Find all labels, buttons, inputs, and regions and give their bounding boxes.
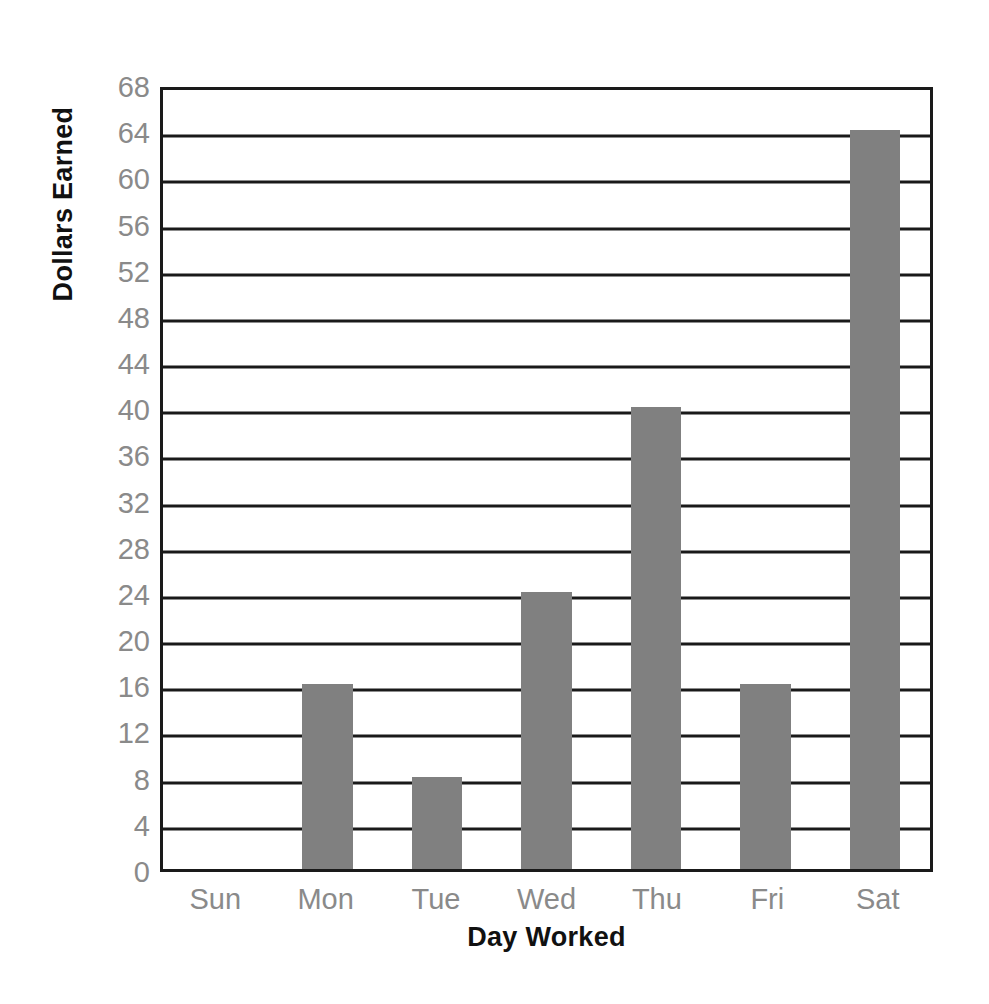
y-tick-label: 12 bbox=[88, 719, 150, 748]
y-tick-label: 48 bbox=[88, 303, 150, 332]
x-tick-label: Wed bbox=[491, 878, 601, 920]
y-tick-label: 68 bbox=[88, 73, 150, 102]
x-axis-tick-labels: SunMonTueWedThuFriSat bbox=[160, 878, 933, 920]
y-tick-label: 60 bbox=[88, 165, 150, 194]
bar-slot bbox=[382, 90, 492, 869]
y-tick-label: 36 bbox=[88, 442, 150, 471]
bar[interactable] bbox=[302, 684, 352, 869]
x-tick-label: Thu bbox=[602, 878, 712, 920]
plot-area bbox=[160, 87, 933, 872]
x-axis-title: Day Worked bbox=[160, 922, 933, 953]
y-tick-label: 16 bbox=[88, 673, 150, 702]
bar-chart: Dollars Earned 6864605652484440363228242… bbox=[0, 0, 989, 1004]
y-tick-label: 8 bbox=[88, 765, 150, 794]
y-tick-label: 4 bbox=[88, 811, 150, 840]
bar-slot bbox=[163, 90, 273, 869]
y-tick-label: 56 bbox=[88, 211, 150, 240]
y-tick-label: 40 bbox=[88, 396, 150, 425]
y-tick-label: 32 bbox=[88, 488, 150, 517]
y-axis-title: Dollars Earned bbox=[46, 44, 80, 364]
x-tick-label: Sun bbox=[160, 878, 270, 920]
y-axis-tick-labels: 686460565248444036322824201612840 bbox=[88, 87, 150, 872]
bar-slot bbox=[711, 90, 821, 869]
bar-slot bbox=[601, 90, 711, 869]
bar[interactable] bbox=[412, 777, 462, 869]
y-tick-label: 0 bbox=[88, 858, 150, 887]
bar-slot bbox=[820, 90, 930, 869]
bar-slot bbox=[273, 90, 383, 869]
y-tick-label: 64 bbox=[88, 119, 150, 148]
bar[interactable] bbox=[850, 130, 900, 869]
bar[interactable] bbox=[740, 684, 790, 869]
bars-layer bbox=[163, 90, 930, 869]
y-tick-label: 28 bbox=[88, 534, 150, 563]
x-tick-label: Sat bbox=[823, 878, 933, 920]
y-tick-label: 52 bbox=[88, 257, 150, 286]
x-tick-label: Mon bbox=[270, 878, 380, 920]
bar-slot bbox=[492, 90, 602, 869]
bar[interactable] bbox=[631, 407, 681, 869]
x-tick-label: Tue bbox=[381, 878, 491, 920]
y-tick-label: 20 bbox=[88, 627, 150, 656]
y-tick-label: 44 bbox=[88, 350, 150, 379]
y-tick-label: 24 bbox=[88, 580, 150, 609]
bar[interactable] bbox=[521, 592, 571, 869]
x-tick-label: Fri bbox=[712, 878, 822, 920]
